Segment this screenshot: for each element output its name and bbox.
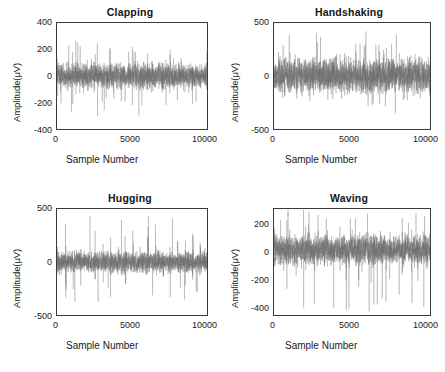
x-tick-label: 5000: [120, 134, 140, 144]
plot-area-waving: [273, 208, 431, 316]
x-tick-label: 5000: [339, 320, 359, 330]
x-tick-label: 5000: [120, 320, 140, 330]
eeg-signal-figure: Clapping Amplitude(μV) 400 200 0 -200 -4…: [0, 0, 445, 372]
x-tick-label: 10000: [192, 320, 217, 330]
panel-handshaking: Handshaking Amplitude(μV) 500 0 -500 0 5…: [223, 0, 445, 186]
plot-area-clapping: [56, 22, 208, 130]
y-tick-label: 0: [26, 257, 52, 267]
x-tick-label: 0: [53, 320, 58, 330]
y-tick-label: 0: [243, 71, 269, 81]
y-axis-label-clapping: Amplitude(μV): [11, 63, 22, 122]
signal-trace-clapping: [57, 23, 207, 129]
y-axis-label-handshaking: Amplitude(μV): [229, 63, 240, 122]
plot-area-handshaking: [273, 22, 431, 130]
x-tick-label: 10000: [413, 320, 438, 330]
y-tick-label: 400: [26, 17, 52, 27]
y-tick-label: -200: [243, 275, 269, 285]
signal-trace-waving: [274, 209, 430, 315]
x-tick-label: 5000: [339, 134, 359, 144]
y-axis-label-hugging: Amplitude(μV): [11, 249, 22, 308]
x-axis-label-handshaking: Sample Number: [285, 154, 357, 165]
x-axis-label-hugging: Sample Number: [66, 340, 138, 351]
y-tick-label: 200: [243, 219, 269, 229]
y-tick-label: -200: [26, 98, 52, 108]
x-tick-label: 10000: [192, 134, 217, 144]
y-tick-label: -500: [26, 311, 52, 321]
panel-title-waving: Waving: [223, 192, 445, 204]
y-tick-label: 500: [26, 203, 52, 213]
signal-trace-handshaking: [274, 23, 430, 129]
panel-hugging: Hugging Amplitude(μV) 500 0 -500 0 5000 …: [0, 186, 222, 372]
panel-waving: Waving Amplitude(μV) 200 0 -200 -400 0 5…: [223, 186, 445, 372]
plot-area-hugging: [56, 208, 208, 316]
y-tick-label: -500: [243, 125, 269, 135]
y-tick-label: -400: [243, 303, 269, 313]
y-axis-label-waving: Amplitude(μV): [229, 249, 240, 308]
x-tick-label: 0: [53, 134, 58, 144]
x-axis-label-clapping: Sample Number: [66, 154, 138, 165]
signal-trace-hugging: [57, 209, 207, 315]
y-tick-label: 200: [26, 44, 52, 54]
x-tick-label: 0: [270, 320, 275, 330]
x-axis-label-waving: Sample Number: [285, 340, 357, 351]
x-tick-label: 10000: [413, 134, 438, 144]
y-tick-label: 0: [243, 247, 269, 257]
y-tick-label: -400: [26, 125, 52, 135]
y-tick-label: 0: [26, 71, 52, 81]
x-tick-label: 0: [270, 134, 275, 144]
panel-clapping: Clapping Amplitude(μV) 400 200 0 -200 -4…: [0, 0, 222, 186]
y-tick-label: 500: [243, 17, 269, 27]
